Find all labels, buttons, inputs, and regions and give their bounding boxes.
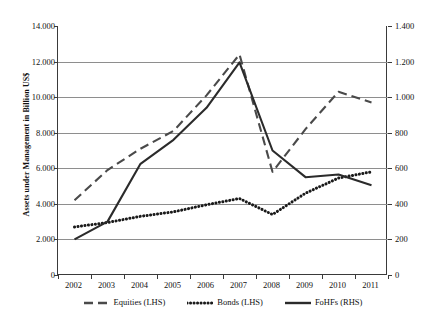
- x-axis-tick: [223, 275, 224, 279]
- y-tick-label-left: 12.000: [32, 57, 55, 67]
- y-tick-label-left: 14.000: [32, 21, 55, 31]
- x-axis-tick: [124, 275, 125, 279]
- solid-line-swatch: [285, 298, 311, 307]
- axis-tick: [388, 168, 392, 169]
- x-axis-tick: [157, 275, 158, 279]
- chart-container: Assets under Management in Billion US$ A…: [0, 0, 446, 321]
- axis-tick: [388, 133, 392, 134]
- y-tick-label-right: 600: [395, 163, 408, 173]
- legend-label: Equities (LHS): [114, 297, 166, 307]
- y-tick-label-left: 2.000: [36, 234, 55, 244]
- legend-item-fohfs[interactable]: FoHFs (RHS): [285, 297, 362, 307]
- x-axis-tick: [256, 275, 257, 279]
- x-axis-tick: [91, 275, 92, 279]
- dotted-line-swatch: [187, 298, 213, 307]
- legend-label: FoHFs (RHS): [315, 297, 362, 307]
- x-axis-tick: [322, 275, 323, 279]
- y-tick-label-right: 400: [395, 199, 408, 209]
- axis-tick: [388, 26, 392, 27]
- x-tick-label: 2011: [351, 280, 391, 290]
- y-tick-label-right: 1.200: [395, 57, 414, 67]
- series-lines: [58, 26, 388, 275]
- axis-tick: [388, 97, 392, 98]
- legend-label: Bonds (LHS): [217, 297, 263, 307]
- x-axis-tick: [289, 275, 290, 279]
- y-tick-label-left: 8.000: [36, 128, 55, 138]
- series-line-equities: [75, 54, 372, 200]
- dashed-line-swatch: [84, 298, 110, 307]
- plot-area: [57, 26, 387, 275]
- legend-item-equities[interactable]: Equities (LHS): [84, 297, 166, 307]
- x-axis-tick: [190, 275, 191, 279]
- axis-tick: [388, 239, 392, 240]
- y-tick-label-right: 1.400: [395, 21, 414, 31]
- x-axis-tick: [58, 275, 59, 279]
- y-tick-label-left: 10.000: [32, 92, 55, 102]
- y-tick-label-right: 0: [395, 270, 399, 280]
- x-axis-tick: [355, 275, 356, 279]
- chart-legend: Equities (LHS)Bonds (LHS)FoHFs (RHS): [0, 297, 446, 307]
- y-axis-title-left: Assets under Management in Billion US$: [22, 65, 31, 225]
- y-tick-label-left: 6.000: [36, 163, 55, 173]
- y-tick-label-left: 4.000: [36, 199, 55, 209]
- y-tick-label-right: 800: [395, 128, 408, 138]
- y-tick-label-right: 1.000: [395, 92, 414, 102]
- x-axis-tick: [388, 275, 389, 279]
- y-tick-label-right: 200: [395, 234, 408, 244]
- series-line-fohfs: [75, 62, 372, 239]
- axis-tick: [388, 204, 392, 205]
- legend-item-bonds[interactable]: Bonds (LHS): [187, 297, 263, 307]
- axis-tick: [388, 62, 392, 63]
